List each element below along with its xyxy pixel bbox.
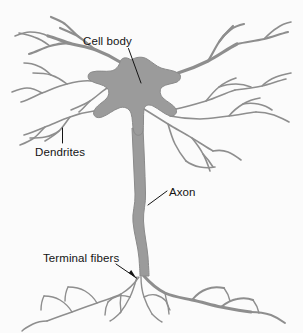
label-axon: Axon xyxy=(169,186,196,198)
label-terminal-fibers: Terminal fibers xyxy=(43,252,119,264)
label-dendrites: Dendrites xyxy=(35,146,85,158)
terminal-fiber-branch-13 xyxy=(120,294,121,312)
neuron-diagram: Cell body Dendrites Axon Terminal fibers xyxy=(0,0,303,333)
neuron-illustration: Cell body Dendrites Axon Terminal fibers xyxy=(0,0,303,333)
label-cell-body: Cell body xyxy=(83,35,132,47)
